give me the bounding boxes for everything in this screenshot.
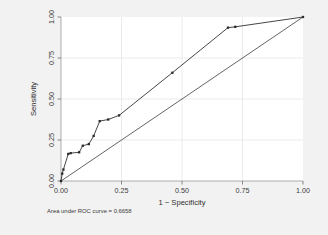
y-axis-title: Sensitivity — [29, 82, 38, 116]
roc-chart-figure: 0.00 0.25 0.50 0.75 1.00 0.00 0.25 0.50 … — [0, 0, 328, 235]
x-tick-label-2: 0.50 — [175, 186, 189, 195]
x-tick-label-0: 0.00 — [54, 186, 68, 195]
y-tick-label-1: 0.25 — [47, 133, 56, 147]
roc-data-point — [62, 168, 64, 170]
x-axis-title: 1 − Specificity — [158, 198, 205, 207]
roc-data-point — [234, 26, 236, 28]
roc-data-point — [107, 118, 109, 120]
roc-data-point — [88, 143, 90, 145]
y-tick-label-0: 0.00 — [47, 174, 56, 188]
y-tick-label-3: 0.75 — [47, 51, 56, 65]
roc-data-point — [60, 180, 62, 182]
roc-data-point — [93, 135, 95, 137]
roc-data-point — [171, 72, 173, 74]
roc-data-point — [82, 145, 84, 147]
roc-plot-svg: 0.00 0.25 0.50 0.75 1.00 0.00 0.25 0.50 … — [0, 0, 328, 235]
roc-data-point — [78, 151, 80, 153]
x-tick-label-1: 0.25 — [115, 186, 129, 195]
roc-data-point — [118, 114, 120, 116]
roc-data-point — [302, 16, 304, 18]
auc-annotation: Area under ROC curve = 0.6658 — [47, 208, 132, 214]
x-tick-label-3: 0.75 — [236, 186, 250, 195]
x-tick-label-4: 1.00 — [296, 186, 310, 195]
roc-data-point — [67, 153, 69, 155]
y-tick-label-4: 1.00 — [47, 10, 56, 24]
roc-data-point — [227, 27, 229, 29]
roc-data-point — [99, 120, 101, 122]
roc-data-point — [70, 152, 72, 154]
y-tick-label-2: 0.50 — [47, 92, 56, 106]
roc-data-point — [61, 172, 63, 174]
